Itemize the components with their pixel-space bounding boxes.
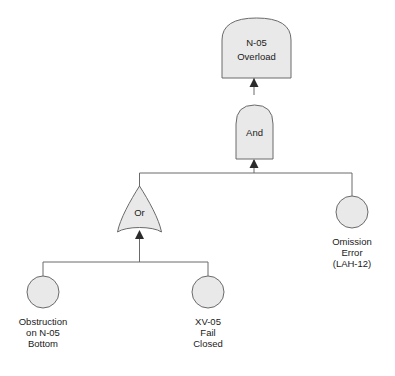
top-event-label-line2: Overload (237, 51, 276, 62)
arrow-into-and-gate (250, 159, 259, 168)
and-gate-node[interactable]: And (236, 105, 273, 159)
obstruction-caption-line1: Obstruction (19, 316, 68, 327)
and-gate-label: And (246, 127, 263, 138)
or-gate-node[interactable]: Or (118, 186, 162, 232)
omission-error-circle (336, 196, 368, 228)
xv05-caption-line3: Closed (193, 338, 223, 349)
arrow-into-top-event (250, 78, 259, 87)
omission-error-caption-line2: Error (341, 247, 362, 258)
top-event-node[interactable]: N-05 Overload (222, 18, 291, 78)
arrow-into-or-gate (135, 230, 144, 239)
omission-error-caption-line3: (LAH-12) (333, 258, 372, 269)
or-gate-label: Or (134, 207, 145, 218)
fault-tree-canvas: N-05 Overload And Or Omission Error (LAH… (0, 0, 395, 376)
fault-tree-diagram: N-05 Overload And Or Omission Error (LAH… (0, 0, 395, 376)
obstruction-node[interactable]: Obstruction on N-05 Bottom (19, 276, 68, 349)
omission-error-caption-line1: Omission (332, 236, 372, 247)
obstruction-caption-line3: Bottom (28, 338, 58, 349)
top-event-shape (222, 18, 291, 78)
obstruction-caption-line2: on N-05 (26, 327, 60, 338)
xv05-fail-closed-node[interactable]: XV-05 Fail Closed (192, 276, 224, 349)
xv05-caption-line1: XV-05 (195, 316, 221, 327)
top-event-label-line1: N-05 (246, 37, 267, 48)
xv05-fail-closed-circle (192, 276, 224, 308)
xv05-caption-line2: Fail (200, 327, 215, 338)
connector-group (43, 78, 352, 276)
obstruction-circle (27, 276, 59, 308)
omission-error-node[interactable]: Omission Error (LAH-12) (332, 196, 372, 269)
